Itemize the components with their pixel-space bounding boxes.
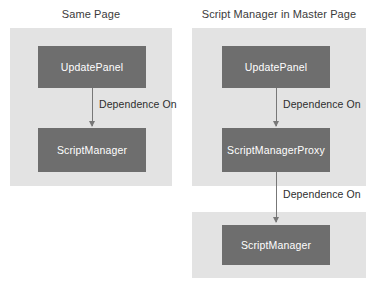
node-left-update-panel: UpdatePanel [38, 46, 146, 88]
column-title-master-page: Script Manager in Master Page [192, 7, 366, 21]
arrow-right-dependence-lower [276, 172, 277, 222]
arrow-right-dependence-upper [276, 88, 277, 126]
diagram-canvas: Same Page Script Manager in Master Page … [0, 0, 376, 288]
edge-label-right-dependence-upper: Dependence On [283, 98, 361, 110]
column-title-same-page: Same Page [10, 7, 172, 21]
edge-label-right-dependence-lower: Dependence On [283, 188, 361, 200]
node-left-script-manager: ScriptManager [38, 128, 146, 172]
node-right-update-panel: UpdatePanel [222, 46, 330, 88]
node-right-script-manager: ScriptManager [222, 225, 330, 265]
edge-label-left-dependence: Dependence On [99, 98, 177, 110]
arrow-left-dependence [92, 88, 93, 126]
node-right-script-manager-proxy: ScriptManagerProxy [222, 128, 330, 172]
